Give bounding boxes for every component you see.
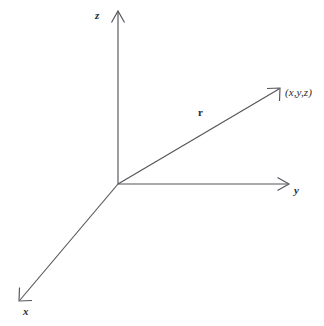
z-axis-group [112,11,125,184]
coordinate-system-diagram: z y x r (x,y,z) [0,0,324,326]
y-axis-group [118,178,289,191]
x-axis-group [19,184,118,301]
position-vector-line [118,89,279,184]
y-axis-label: y [294,185,299,196]
coordinate-axes-svg [0,0,324,326]
point-coordinates-label: (x,y,z) [285,87,312,98]
position-vector-label: r [198,107,203,118]
position-vector-group [118,88,280,184]
x-axis-label: x [23,306,29,317]
x-axis-line [20,184,118,300]
z-axis-label: z [95,10,99,21]
